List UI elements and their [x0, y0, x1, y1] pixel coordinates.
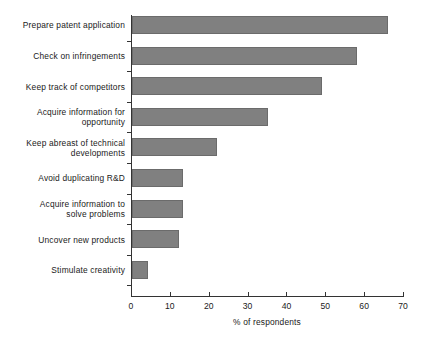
category-axis-tick	[127, 224, 132, 225]
category-axis-tick	[127, 41, 132, 42]
x-axis-tick	[209, 292, 210, 297]
x-axis-tick-label: 60	[350, 301, 378, 311]
x-axis-tick-label: 20	[195, 301, 223, 311]
bar	[132, 200, 183, 218]
category-axis-tick	[127, 132, 132, 133]
category-axis-tick	[127, 255, 132, 256]
bar-row: Check on infringements	[0, 47, 421, 78]
bar	[132, 230, 179, 248]
category-label: Avoid duplicating R&D	[3, 173, 125, 183]
x-axis-tick	[131, 292, 132, 297]
category-label: Keep abreast of technical developments	[3, 138, 125, 158]
category-label: Acquire information for opportunity	[3, 107, 125, 127]
category-label: Keep track of competitors	[3, 82, 125, 92]
x-axis-tick	[248, 292, 249, 297]
x-axis-tick-label: 50	[311, 301, 339, 311]
bar-row: Avoid duplicating R&D	[0, 169, 421, 200]
category-label: Check on infringements	[3, 51, 125, 61]
bar	[132, 16, 388, 34]
x-axis-tick-label: 70	[389, 301, 417, 311]
x-axis-tick	[286, 292, 287, 297]
bar-row: Acquire information to solve problems	[0, 200, 421, 231]
bar	[132, 108, 268, 126]
bar-row: Keep track of competitors	[0, 77, 421, 108]
bar	[132, 169, 183, 187]
x-axis-tick	[170, 292, 171, 297]
bar-row: Keep abreast of technical developments	[0, 138, 421, 169]
category-label: Stimulate creativity	[3, 265, 125, 275]
category-label: Acquire information to solve problems	[3, 199, 125, 219]
bar	[132, 47, 357, 65]
bar-row: Uncover new products	[0, 230, 421, 261]
category-axis-tick	[127, 285, 132, 286]
category-axis-tick	[127, 71, 132, 72]
value-axis-line	[131, 296, 403, 297]
plot-area: Prepare patent applicationCheck on infri…	[0, 0, 421, 347]
x-axis-tick-label: 40	[272, 301, 300, 311]
bar	[132, 261, 148, 279]
bar	[132, 138, 217, 156]
x-axis-tick	[364, 292, 365, 297]
category-axis-tick	[127, 102, 132, 103]
bar-row: Stimulate creativity	[0, 261, 421, 292]
bar-chart: Prepare patent applicationCheck on infri…	[0, 0, 421, 347]
bar	[132, 77, 322, 95]
x-axis-tick	[403, 292, 404, 297]
category-label: Uncover new products	[3, 235, 125, 245]
category-axis-tick	[127, 163, 132, 164]
category-label: Prepare patent application	[3, 20, 125, 30]
x-axis-title: % of respondents	[131, 317, 403, 327]
x-axis-tick-label: 30	[234, 301, 262, 311]
category-axis-tick	[127, 194, 132, 195]
x-axis-tick	[325, 292, 326, 297]
x-axis-tick-label: 0	[117, 301, 145, 311]
bar-row: Acquire information for opportunity	[0, 108, 421, 139]
bar-row: Prepare patent application	[0, 16, 421, 47]
x-axis-tick-label: 10	[156, 301, 184, 311]
